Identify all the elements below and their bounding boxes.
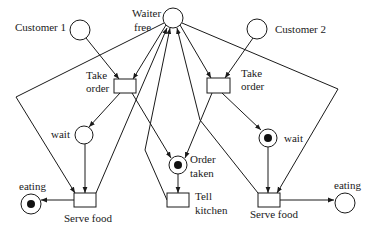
token: [264, 134, 272, 142]
place-label-line1: Waiter: [132, 7, 161, 19]
petri-net-diagram: Customer 1 Waiter free Customer 2 wait O…: [0, 0, 372, 235]
arc-take-order2-to-order-taken: [185, 93, 212, 158]
arc-take-order1-to-wait1: [89, 93, 120, 127]
place-label: wait: [51, 128, 70, 140]
place-wait2: wait: [259, 129, 303, 147]
place-wait1: wait: [51, 126, 93, 144]
transition-label-line1: Take: [86, 69, 107, 81]
arc-serve-food1-to-waiter: [96, 28, 167, 193]
place-label: Customer 2: [275, 23, 326, 35]
arc-take-order1-to-order-taken: [132, 93, 171, 158]
transition-serve-food2: Serve food: [250, 193, 298, 220]
place-customer2: Customer 2: [247, 19, 326, 39]
transition-label-line2: order: [241, 80, 265, 92]
transition-serve-food1: Serve food: [64, 193, 112, 224]
transition-label: Serve food: [250, 208, 298, 220]
transition-tell-kitchen: Tell kitchen: [167, 190, 228, 216]
place-label: wait: [284, 132, 303, 144]
transition-label-line1: Take: [241, 67, 262, 79]
transition-take-order2: Take order: [207, 67, 265, 93]
transition-label-line2: kitchen: [195, 204, 228, 216]
transition-take-order1: Take order: [86, 69, 136, 94]
place-label: eating: [334, 179, 361, 191]
place-label: eating: [19, 180, 46, 192]
place-label: Customer 1: [15, 21, 66, 33]
place-order-taken: Order taken: [169, 153, 216, 179]
place-waiter-free: Waiter free: [132, 7, 183, 33]
transition-label-line1: Tell: [195, 190, 212, 202]
arc-take-order2-to-wait2: [222, 93, 261, 130]
transition-label: Serve food: [64, 212, 112, 224]
token: [27, 200, 35, 208]
place-eating2: eating: [334, 179, 361, 213]
arc-waiter-loop-to-serve-food1: [16, 23, 164, 193]
place-label-line1: Order: [190, 153, 216, 165]
transition-label-line2: order: [86, 82, 110, 94]
token: [174, 161, 182, 169]
place-label-line2: taken: [190, 167, 214, 179]
place-eating1: eating: [19, 180, 46, 214]
place-label-line2: free: [134, 21, 151, 33]
place-customer1: Customer 1: [15, 20, 90, 40]
